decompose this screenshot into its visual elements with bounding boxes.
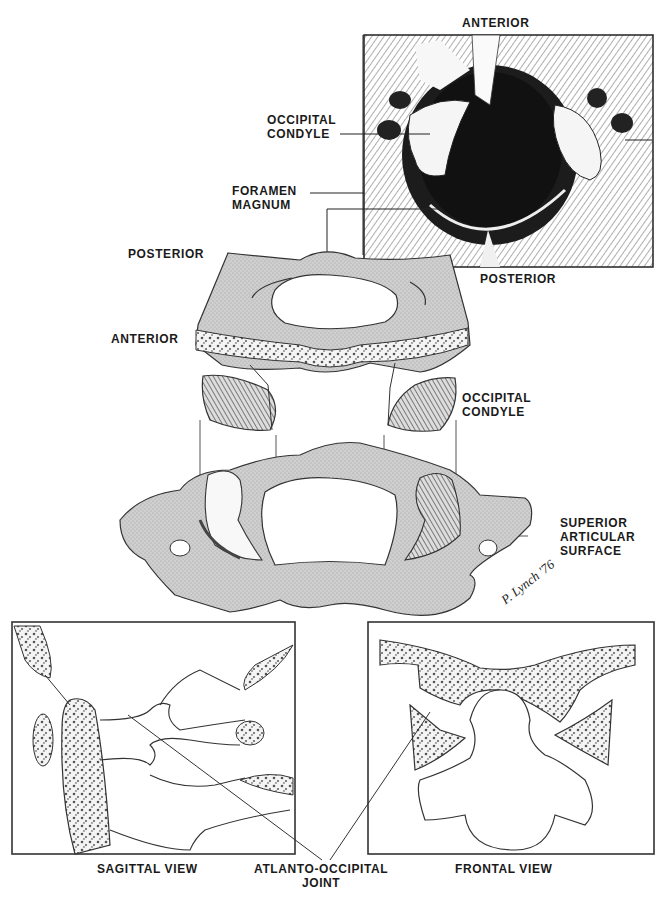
atlas-vertebra: [120, 443, 532, 616]
occipital-bone-model: [196, 252, 470, 431]
label-anterior: ANTERIOR: [111, 332, 178, 346]
label-posterior: POSTERIOR: [128, 247, 204, 261]
label-foramen-magnum: FORAMEN MAGNUM: [232, 184, 297, 212]
label-anterior-top: ANTERIOR: [462, 16, 529, 30]
label-occipital-condyle-top: OCCIPITAL CONDYLE: [267, 113, 336, 141]
label-posterior-bottom-inset: POSTERIOR: [480, 272, 556, 286]
label-frontal-view: FRONTAL VIEW: [455, 862, 552, 876]
label-atlanto-occipital-joint: ATLANTO-OCCIPITAL JOINT: [254, 862, 388, 890]
label-occipital-condyle-mid: OCCIPITAL CONDYLE: [462, 391, 531, 419]
frontal-view-panel: [368, 622, 654, 854]
label-sagittal-view: SAGITTAL VIEW: [97, 862, 198, 876]
label-superior-articular-surface: SUPERIOR ARTICULAR SURFACE: [560, 516, 635, 558]
inset-skull-base: [364, 35, 653, 267]
sagittal-view-panel: [12, 622, 295, 854]
